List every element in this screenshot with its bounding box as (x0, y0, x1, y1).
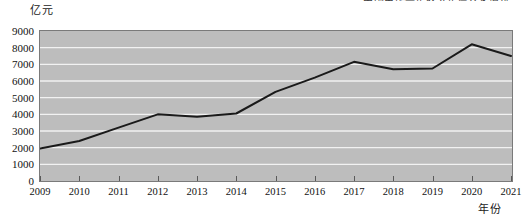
line-chart-svg (40, 31, 512, 181)
y-tick-label: 8000 (0, 43, 34, 53)
y-axis-unit-label: 亿元 (30, 1, 53, 17)
x-tick-label: 2010 (57, 186, 101, 197)
x-tick-label: 2014 (214, 186, 258, 197)
y-tick-label: 3000 (0, 126, 34, 136)
y-tick-label: 5000 (0, 93, 34, 103)
x-tick-label: 2013 (175, 186, 219, 197)
y-tick-label: 4000 (0, 109, 34, 119)
y-tick-label: 7000 (0, 59, 34, 69)
plot-area (39, 30, 513, 182)
y-tick-label: 2000 (0, 143, 34, 153)
gridlines (40, 48, 512, 165)
x-tick-label: 2016 (293, 186, 337, 197)
x-axis-title: 年份 (478, 200, 501, 216)
x-tick-label: 2018 (371, 186, 415, 197)
y-tick-label: 0 (0, 176, 34, 186)
data-series-line (40, 44, 511, 148)
x-tick-label: 2020 (450, 186, 494, 197)
x-tick-label: 2012 (136, 186, 180, 197)
x-tick-label: 2017 (332, 186, 376, 197)
top-caption: 中国电影票房收入年度变化情况 (363, 0, 510, 1)
x-tick-label: 2015 (254, 186, 298, 197)
y-tick-label: 9000 (0, 26, 34, 36)
y-tick-label: 6000 (0, 76, 34, 86)
x-axis-tick-marks-inner (41, 176, 512, 181)
x-tick-label: 2011 (97, 186, 141, 197)
x-tick-label: 2021 (489, 186, 526, 197)
y-tick-label: 1000 (0, 159, 34, 169)
x-tick-label: 2019 (411, 186, 455, 197)
x-tick-label: 2009 (18, 186, 62, 197)
